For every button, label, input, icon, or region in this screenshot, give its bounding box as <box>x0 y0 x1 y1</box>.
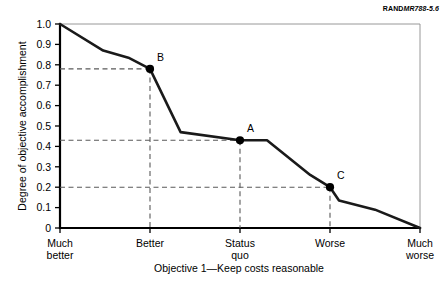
x-axis-category-label: Worse <box>315 237 345 249</box>
y-tick-label: 0.1 <box>36 201 51 213</box>
y-tick-label: 0.8 <box>36 59 51 71</box>
y-tick-label: 0.6 <box>36 99 51 111</box>
y-tick-label: 0.3 <box>36 161 51 173</box>
data-point-marker <box>326 183 334 191</box>
y-tick-label: 1.0 <box>36 18 51 30</box>
y-tick-label: 0.2 <box>36 181 51 193</box>
x-axis-category-label: better <box>47 249 74 261</box>
x-axis-category-label: Much <box>47 237 73 249</box>
x-axis-category-label: worse <box>405 249 434 261</box>
figure-container: RANDMR788-5.6 00.10.20.30.40.50.60.70.80… <box>0 0 447 289</box>
leader-lines <box>60 69 330 228</box>
x-axis-category-label: Status <box>225 237 255 249</box>
y-axis-title: Degree of objective accomplishment <box>16 41 28 210</box>
value-function-chart: 00.10.20.30.40.50.60.70.80.91.0 BAC Much… <box>0 0 447 289</box>
y-axis-tick-labels: 00.10.20.30.40.50.60.70.80.91.0 <box>36 18 51 234</box>
data-point-label: B <box>157 51 164 63</box>
x-axis-category-label: Much <box>407 237 433 249</box>
y-tick-label: 0 <box>45 222 51 234</box>
data-point-label: A <box>247 122 254 134</box>
x-axis-category-labels: MuchbetterBetterStatusquoWorseMuchworse <box>47 237 435 261</box>
data-point-marker <box>146 65 154 73</box>
data-point-label: C <box>337 169 345 181</box>
value-function-curve <box>60 24 420 228</box>
y-tick-label: 0.4 <box>36 140 51 152</box>
data-point-marker <box>236 136 244 144</box>
y-tick-label: 0.9 <box>36 38 51 50</box>
y-tick-label: 0.5 <box>36 120 51 132</box>
annotated-point-labels: BAC <box>157 51 345 181</box>
x-axis-category-label: quo <box>231 249 249 261</box>
y-tick-label: 0.7 <box>36 79 51 91</box>
x-axis-title: Objective 1—Keep costs reasonable <box>154 262 324 274</box>
x-axis-category-label: Better <box>136 237 165 249</box>
